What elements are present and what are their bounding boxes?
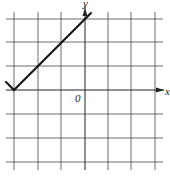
x-axis-label: x	[164, 85, 170, 97]
y-axis-arrow-icon	[83, 8, 88, 16]
origin-label: 0	[75, 92, 81, 104]
y-axis	[83, 6, 88, 170]
coordinate-plane: y x 0	[0, 0, 170, 178]
y-axis-label: y	[82, 0, 88, 9]
x-axis-arrow-icon	[156, 88, 164, 93]
graph-line	[6, 13, 91, 90]
